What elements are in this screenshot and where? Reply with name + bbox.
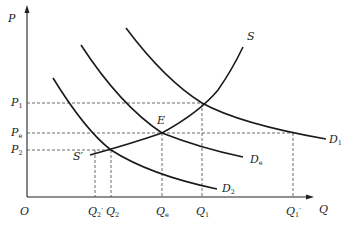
x-axis-arrow-icon: [306, 195, 314, 200]
origin-label: O: [20, 205, 29, 218]
x-axis-label: Q: [319, 203, 328, 216]
curve-label-s: S: [247, 30, 255, 43]
diagram-canvas: P Q O P1 Pe P2 Q2′ Q2 Qe Q1 Q1′ S S′ D1 …: [0, 0, 349, 228]
supply-curve-s: [90, 47, 243, 155]
curves: [53, 28, 326, 189]
curve-label-d1: D1: [328, 133, 342, 147]
price-label-p2: P2: [10, 143, 23, 157]
quantity-label-q2prime: Q2′: [88, 205, 103, 219]
demand-curve-d1: [126, 28, 326, 139]
curve-label-d2: D2: [221, 182, 235, 196]
quantity-label-qe: Qe: [156, 205, 169, 219]
quantity-label-q1prime: Q1′: [286, 205, 301, 219]
labels: P Q O P1 Pe P2 Q2′ Q2 Qe Q1 Q1′ S S′ D1 …: [7, 12, 342, 219]
equilibrium-label-e: E: [156, 114, 165, 127]
curve-label-de: De: [249, 153, 263, 167]
quantity-label-q2: Q2: [106, 205, 119, 219]
supply-demand-diagram: P Q O P1 Pe P2 Q2′ Q2 Qe Q1 Q1′ S S′ D1 …: [0, 0, 349, 228]
y-axis-arrow-icon: [25, 5, 30, 13]
quantity-label-q1: Q1: [196, 205, 209, 219]
demand-curve-d2: [53, 78, 217, 189]
price-label-p1: P1: [10, 96, 23, 110]
price-label-pe: Pe: [10, 126, 22, 140]
y-axis-label: P: [7, 12, 16, 25]
curve-label-sprime: S′: [73, 150, 84, 163]
